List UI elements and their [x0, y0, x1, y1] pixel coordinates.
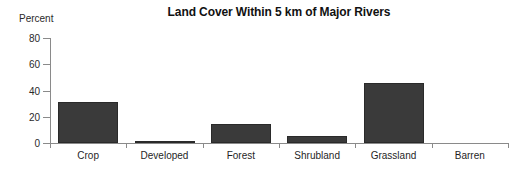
bar-grassland [364, 83, 424, 143]
chart-title: Land Cover Within 5 km of Major Rivers [50, 5, 508, 19]
x-axis-category-label: Barren [432, 150, 508, 161]
x-axis-category-label: Developed [126, 150, 202, 161]
x-axis-tick [126, 143, 127, 148]
bar-crop [58, 102, 118, 143]
x-axis-category-label: Shrubland [279, 150, 355, 161]
x-axis-category-label: Crop [50, 150, 126, 161]
x-axis-tick [279, 143, 280, 148]
y-axis-tick-label: 80 [6, 33, 40, 44]
y-axis-tick [43, 143, 50, 144]
x-axis-tick [432, 143, 433, 148]
y-axis-tick-label: 0 [6, 138, 40, 149]
x-axis-tick [355, 143, 356, 148]
bar-developed [135, 141, 195, 143]
bar-chart: Land Cover Within 5 km of Major Rivers P… [0, 0, 519, 175]
x-axis-tick [203, 143, 204, 148]
plot-area [50, 38, 508, 143]
x-axis-category-label: Forest [203, 150, 279, 161]
y-axis-tick [43, 117, 50, 118]
y-axis-tick-label: 20 [6, 111, 40, 122]
y-axis-tick [43, 91, 50, 92]
bar-shrubland [287, 136, 347, 143]
x-axis-tick [508, 143, 509, 148]
y-axis-tick-labels: 020406080 [4, 0, 40, 175]
bar-forest [211, 124, 271, 143]
y-axis-tick-label: 40 [6, 85, 40, 96]
x-axis-category-label: Grassland [355, 150, 431, 161]
y-axis-tick-label: 60 [6, 59, 40, 70]
y-axis-tick [43, 38, 50, 39]
y-axis-tick [43, 64, 50, 65]
x-axis-tick [50, 143, 51, 148]
